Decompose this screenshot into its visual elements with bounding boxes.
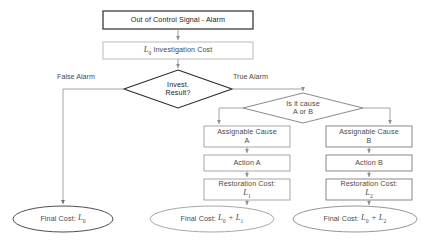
edge-true-alarm [232,89,303,91]
node-cause-b-shape [326,126,412,147]
flowchart-canvas: Out of Control Signal - Alarm L0 Investi… [0,0,435,244]
edge-label-false-alarm: False Alarm [57,72,95,81]
node-final-false-shape [13,206,113,232]
node-investigation-shape [103,42,253,59]
node-decision-invest-shape [124,70,232,108]
node-final-b-shape [293,206,417,232]
node-restoration-b-shape [326,179,412,200]
flowchart-connectors [0,0,435,244]
node-action-a-shape [204,155,290,171]
node-final-a-shape [150,206,274,232]
node-cause-a-shape [204,126,290,147]
edge-false-alarm [63,89,124,204]
node-decision-cause-shape [243,93,363,123]
edge-label-true-alarm: True Alarm [233,72,268,81]
edge-cause-to-b [363,108,390,124]
node-start-shape [103,11,253,29]
node-restoration-a-shape [204,179,290,200]
edge-cause-to-a [219,108,243,124]
node-action-b-shape [326,155,412,171]
